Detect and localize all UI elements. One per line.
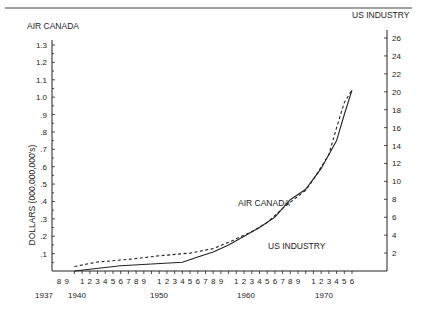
x-tick-label: 6: [350, 277, 355, 286]
x-label-1970: 1970: [315, 291, 333, 300]
x-tick-label: 4: [257, 277, 262, 286]
x-tick-label: 8: [211, 277, 216, 286]
right-tick-label: 10: [392, 177, 401, 186]
x-tick-label: 1: [80, 277, 85, 286]
left-tick-label: .6: [40, 163, 47, 172]
left-tick-label: .7: [40, 145, 47, 154]
x-tick-label: 7: [203, 277, 208, 286]
right-tick-label: 18: [392, 106, 401, 115]
x-tick-label: 9: [142, 277, 147, 286]
x-tick-label: 2: [242, 277, 247, 286]
right-tick-label: 14: [392, 142, 401, 151]
left-tick-label: .9: [40, 111, 47, 120]
x-tick-label: 1: [234, 277, 239, 286]
x-tick-label: 4: [180, 277, 185, 286]
x-tick-label: 1: [157, 277, 162, 286]
x-tick-label: 9: [64, 277, 69, 286]
x-tick-label: 5: [342, 277, 347, 286]
x-tick-label: 5: [188, 277, 193, 286]
x-tick-label: 8: [288, 277, 293, 286]
x-axis-ticks: 89123456789123456789123456789123456: [57, 271, 355, 286]
y-axis-label: DOLLARS (000,000,000's): [27, 144, 37, 245]
x-label-1950: 1950: [150, 291, 168, 300]
right-tick-label: 22: [392, 70, 401, 79]
right-tick-label: 26: [392, 34, 401, 43]
left-tick-label: 1.3: [36, 41, 48, 50]
x-label-1960: 1960: [237, 291, 255, 300]
x-tick-label: 3: [172, 277, 177, 286]
right-tick-label: 8: [392, 195, 397, 204]
x-tick-label: 5: [265, 277, 270, 286]
left-tick-label: .1: [40, 250, 47, 259]
x-tick-label: 6: [273, 277, 278, 286]
annotation-air-canada: AIR CANADA: [238, 198, 290, 208]
x-tick-label: 4: [334, 277, 339, 286]
right-tick-label: 2: [392, 249, 397, 258]
right-tick-label: 24: [392, 52, 401, 61]
x-tick-label: 1: [311, 277, 316, 286]
x-tick-label: 9: [296, 277, 301, 286]
left-tick-label: 1.0: [36, 93, 48, 102]
x-tick-label: 4: [103, 277, 108, 286]
x-tick-label: 9: [219, 277, 224, 286]
right-axis-title: US INDUSTRY: [352, 10, 410, 20]
x-tick-label: 5: [111, 277, 116, 286]
x-label-1937: 1937: [35, 291, 53, 300]
x-tick-label: 7: [280, 277, 285, 286]
left-tick-label: .3: [40, 215, 47, 224]
x-tick-label: 3: [250, 277, 255, 286]
left-tick-label: .2: [40, 232, 47, 241]
x-label-1940: 1940: [68, 291, 86, 300]
x-tick-label: 8: [134, 277, 139, 286]
x-tick-label: 8: [57, 277, 62, 286]
chart: AIR CANADA US INDUSTRY DOLLARS (000,000,…: [0, 0, 424, 309]
annotation-us-industry: US INDUSTRY: [268, 241, 326, 251]
left-tick-label: .8: [40, 128, 47, 137]
right-tick-label: 16: [392, 124, 401, 133]
right-tick-label: 12: [392, 159, 401, 168]
x-tick-label: 2: [88, 277, 93, 286]
x-tick-label: 2: [165, 277, 170, 286]
x-tick-label: 3: [327, 277, 332, 286]
right-tick-label: 20: [392, 88, 401, 97]
x-tick-label: 6: [196, 277, 201, 286]
left-tick-label: 1.1: [36, 76, 48, 85]
x-tick-label: 6: [118, 277, 123, 286]
right-tick-label: 6: [392, 213, 397, 222]
right-tick-label: 4: [392, 231, 397, 240]
left-tick-label: .4: [40, 197, 47, 206]
left-axis-title: AIR CANADA: [27, 21, 79, 31]
x-tick-label: 2: [319, 277, 324, 286]
x-tick-label: 3: [95, 277, 100, 286]
left-tick-label: 1.2: [36, 58, 48, 67]
left-tick-label: .5: [40, 180, 47, 189]
x-tick-label: 7: [126, 277, 131, 286]
